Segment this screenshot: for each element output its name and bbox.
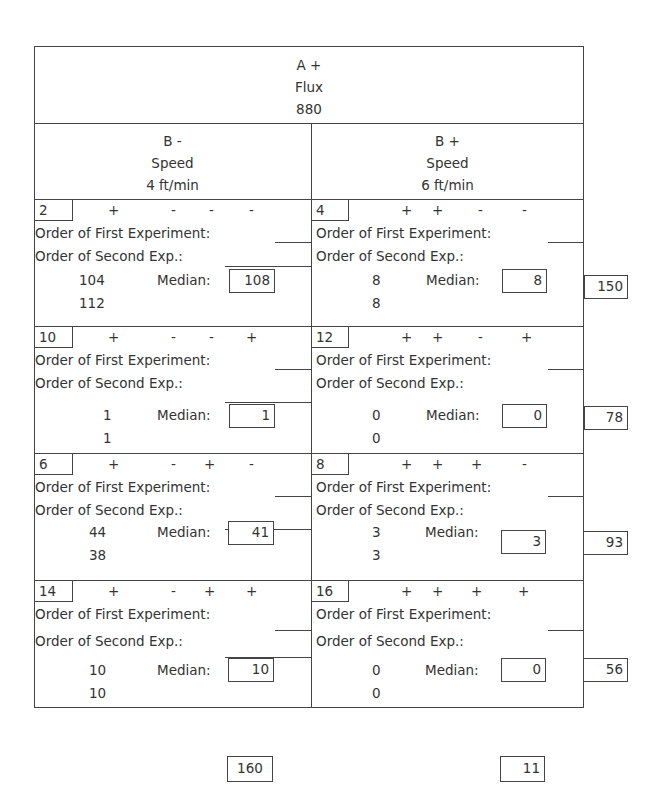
sign-1: + — [108, 200, 119, 220]
value-2: 1 — [103, 428, 112, 448]
sign-1: + — [401, 454, 412, 474]
first-exp-label: Order of First Experiment: — [35, 604, 210, 624]
row-total-box: 78 — [584, 406, 628, 430]
sign-3: - — [478, 327, 483, 347]
sign-2: + — [432, 454, 443, 474]
factor-a-header: A + Flux 880 — [34, 54, 584, 120]
value-2: 0 — [372, 428, 381, 448]
sign-4: + — [246, 581, 257, 601]
value-1: 0 — [372, 660, 381, 680]
run-number-box: 14 — [34, 580, 73, 602]
value-1: 0 — [372, 405, 381, 425]
factor-a-value: 880 — [34, 98, 584, 120]
sign-4: - — [522, 200, 527, 220]
second-exp-label: Order of Second Exp.: — [35, 500, 183, 520]
first-exp-field — [548, 496, 584, 497]
value-1: 104 — [79, 270, 105, 290]
value-2: 10 — [89, 683, 106, 703]
row-total-box: 150 — [584, 275, 628, 299]
factor-b-name: Speed — [34, 152, 311, 174]
median-label: Median: — [157, 405, 211, 425]
value-2: 3 — [372, 545, 381, 565]
first-exp-label: Order of First Experiment: — [316, 350, 491, 370]
second-exp-label: Order of Second Exp.: — [316, 631, 464, 651]
median-box: 10 — [228, 658, 274, 682]
first-exp-label: Order of First Experiment: — [316, 223, 491, 243]
sign-1: + — [401, 581, 412, 601]
median-label: Median: — [157, 660, 211, 680]
median-box: 1 — [229, 404, 275, 428]
sign-1: + — [401, 200, 412, 220]
factor-b-label: B - — [34, 130, 311, 152]
column-total-box-right: 11 — [500, 756, 545, 782]
median-label: Median: — [425, 660, 479, 680]
first-exp-label: Order of First Experiment: — [35, 223, 210, 243]
sign-2: - — [171, 454, 176, 474]
median-box: 3 — [501, 530, 546, 554]
first-exp-label: Order of First Experiment: — [35, 350, 210, 370]
second-exp-label: Order of Second Exp.: — [35, 631, 183, 651]
median-label: Median: — [157, 522, 211, 542]
sign-1: + — [108, 581, 119, 601]
median-label: Median: — [426, 270, 480, 290]
factor-b-value: 4 ft/min — [34, 174, 311, 196]
second-exp-field — [225, 402, 311, 403]
median-box: 41 — [228, 521, 274, 545]
table-top-border — [34, 46, 584, 47]
first-exp-field — [275, 369, 311, 370]
sign-2: + — [432, 200, 443, 220]
sign-1: + — [401, 327, 412, 347]
first-exp-label: Order of First Experiment: — [35, 477, 210, 497]
sign-4: + — [518, 581, 529, 601]
sign-2: - — [171, 200, 176, 220]
value-1: 8 — [372, 270, 381, 290]
second-exp-label: Order of Second Exp.: — [316, 373, 464, 393]
second-exp-label: Order of Second Exp.: — [35, 373, 183, 393]
median-box: 0 — [501, 658, 546, 682]
sign-1: + — [108, 327, 119, 347]
median-label: Median: — [425, 522, 479, 542]
sign-3: - — [209, 327, 214, 347]
value-1: 1 — [103, 405, 112, 425]
value-1: 3 — [372, 522, 381, 542]
sign-3: + — [471, 581, 482, 601]
row-total-box: 93 — [583, 531, 628, 555]
value-2: 38 — [89, 545, 106, 565]
sign-3: + — [204, 581, 215, 601]
sign-2: + — [432, 327, 443, 347]
sign-3: + — [204, 454, 215, 474]
sign-2: + — [432, 581, 443, 601]
sign-4: - — [249, 200, 254, 220]
first-exp-field — [275, 242, 311, 243]
second-exp-field — [225, 266, 311, 267]
run-number-box: 12 — [311, 326, 349, 348]
factor-b-value: 6 ft/min — [311, 174, 584, 196]
second-exp-label: Order of Second Exp.: — [316, 500, 464, 520]
column-header-b-minus: B - Speed 4 ft/min — [34, 130, 311, 196]
second-exp-label: Order of Second Exp.: — [35, 246, 183, 266]
factor-b-name: Speed — [311, 152, 584, 174]
run-number-box: 2 — [34, 199, 73, 221]
median-label: Median: — [426, 405, 480, 425]
sign-1: + — [108, 454, 119, 474]
first-exp-field — [548, 630, 584, 631]
run-number-box: 4 — [311, 199, 349, 221]
run-number-box: 10 — [34, 326, 73, 348]
table-bottom-border — [34, 707, 584, 708]
header-divider — [34, 123, 584, 124]
median-box: 8 — [502, 269, 547, 293]
value-2: 112 — [79, 293, 105, 313]
column-header-b-plus: B + Speed 6 ft/min — [311, 130, 584, 196]
sign-4: + — [246, 327, 257, 347]
second-exp-label: Order of Second Exp.: — [316, 246, 464, 266]
sign-2: - — [171, 327, 176, 347]
median-label: Median: — [157, 270, 211, 290]
sign-4: - — [522, 454, 527, 474]
first-exp-field — [548, 242, 584, 243]
first-exp-field — [275, 496, 311, 497]
value-1: 10 — [89, 660, 106, 680]
first-exp-field — [548, 369, 584, 370]
column-total-box-left: 160 — [227, 756, 273, 782]
sign-4: + — [521, 327, 532, 347]
factor-b-label: B + — [311, 130, 584, 152]
